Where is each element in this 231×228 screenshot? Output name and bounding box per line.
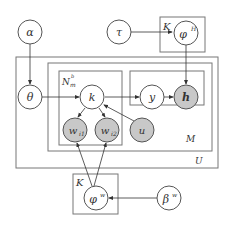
- svg-text:φ: φ: [179, 28, 187, 41]
- graphical-model-diagram: K U M N m b K α τ: [0, 0, 231, 228]
- svg-text:K: K: [75, 177, 84, 188]
- node-alpha: α: [18, 20, 42, 44]
- svg-text:y: y: [148, 91, 156, 104]
- svg-text:M: M: [185, 134, 196, 144]
- node-phi-h: φ H: [174, 21, 198, 45]
- node-w-i1: w i1: [63, 118, 87, 142]
- svg-text:w: w: [172, 191, 178, 198]
- svg-text:i1: i1: [79, 130, 85, 137]
- svg-text:β: β: [162, 193, 169, 206]
- svg-text:θ: θ: [27, 91, 34, 104]
- svg-text:w: w: [69, 125, 78, 136]
- svg-text:K: K: [162, 21, 171, 32]
- svg-text:τ: τ: [116, 26, 123, 39]
- svg-text:w: w: [101, 125, 110, 136]
- node-y: y: [140, 85, 164, 109]
- node-beta-w: β w: [157, 186, 181, 210]
- svg-text:α: α: [26, 26, 34, 39]
- svg-text:i2: i2: [111, 130, 117, 137]
- node-u: u: [130, 118, 154, 142]
- svg-text:h: h: [182, 91, 190, 104]
- svg-text:φ: φ: [89, 193, 97, 206]
- svg-text:u: u: [139, 125, 145, 136]
- node-k: k: [80, 85, 104, 109]
- node-w-i2: w i2: [95, 118, 119, 142]
- svg-text:m: m: [70, 81, 76, 88]
- node-tau: τ: [107, 20, 131, 44]
- svg-text:b: b: [71, 73, 74, 79]
- node-phi-w: φ w: [84, 186, 108, 210]
- svg-text:k: k: [89, 91, 96, 104]
- node-h: h: [174, 85, 198, 109]
- node-theta: θ: [18, 85, 42, 109]
- svg-text:U: U: [195, 156, 203, 166]
- svg-text:w: w: [100, 191, 106, 198]
- svg-text:H: H: [190, 25, 197, 32]
